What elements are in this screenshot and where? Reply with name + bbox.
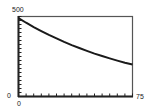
plot-area [0, 0, 145, 108]
decay-curve [19, 18, 133, 64]
